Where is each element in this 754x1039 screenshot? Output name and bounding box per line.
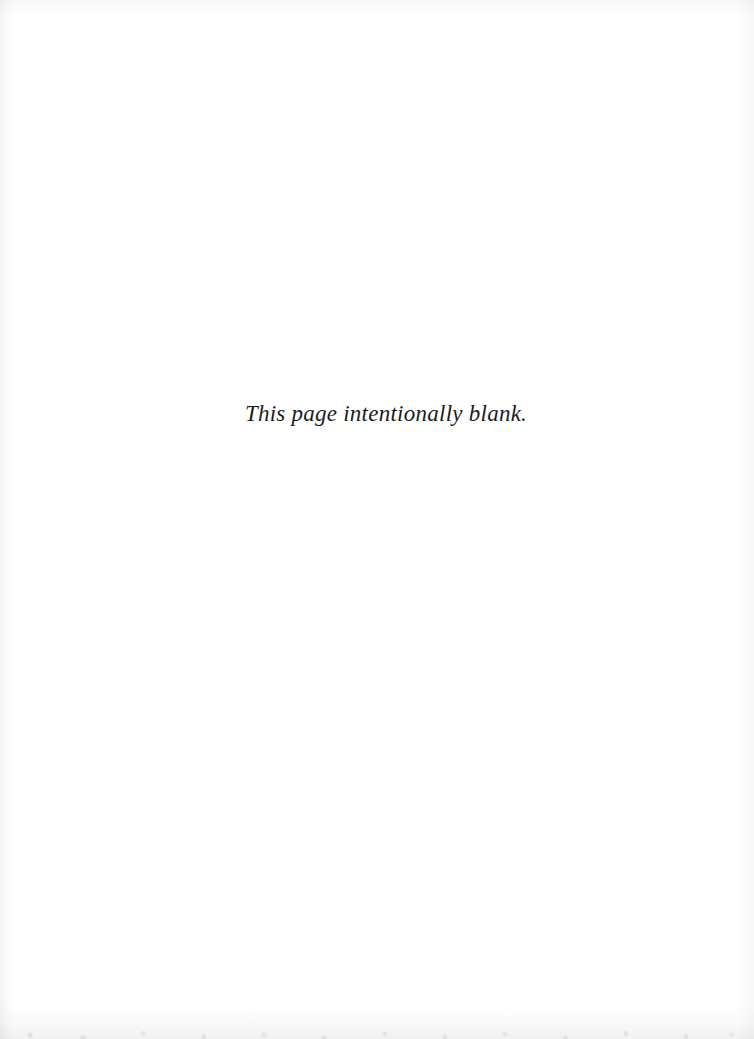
scan-edge-speckle-bottom: [0, 1013, 754, 1039]
scan-edge-shadow-right: [738, 0, 754, 1039]
scan-edge-shadow-bottom: [0, 1005, 754, 1039]
document-page: This page intentionally blank.: [0, 0, 754, 1039]
scan-edge-shadow-left: [0, 0, 14, 1039]
intentionally-blank-notice: This page intentionally blank.: [0, 399, 754, 429]
scan-edge-shadow-top: [0, 0, 754, 16]
